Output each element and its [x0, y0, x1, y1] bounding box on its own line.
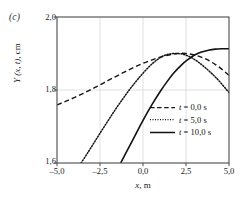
- legend-swatch-solid: [150, 128, 175, 137]
- legend-item-t0: t = 0,0 s: [150, 101, 230, 114]
- figure-panel-c: (c) Y (x, t), cm x, m 2,0 1,8 1,6 –5,0 –…: [0, 0, 242, 199]
- legend-label-t10: t = 10,0 s: [179, 127, 211, 137]
- legend: t = 0,0 s t = 5,0 s t = 10,0 s: [150, 101, 230, 139]
- legend-swatch-dotted: [150, 115, 175, 124]
- legend-swatch-dashed: [150, 103, 175, 112]
- legend-item-t10: t = 10,0 s: [150, 126, 230, 139]
- legend-item-t5: t = 5,0 s: [150, 114, 230, 127]
- legend-label-t0: t = 0,0 s: [179, 102, 207, 112]
- plot-canvas: [0, 0, 242, 199]
- legend-label-t5: t = 5,0 s: [179, 115, 207, 125]
